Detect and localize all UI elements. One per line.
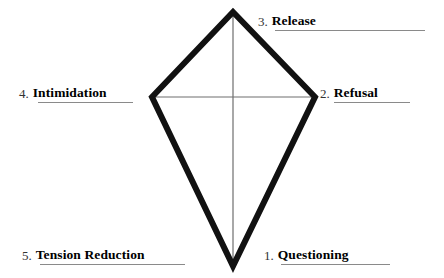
label-release-underline [275,30,425,31]
label-refusal: 2. Refusal [320,86,378,100]
label-questioning-number: 1. [264,249,278,262]
label-refusal-number: 2. [320,87,334,100]
label-questioning: 1. Questioning [264,248,349,262]
label-intimidation-text: Intimidation [33,86,107,100]
label-release-text: Release [272,14,316,28]
label-refusal-text: Refusal [334,86,378,100]
label-tension-reduction-underline [40,264,185,265]
label-release: 3. Release [258,14,316,28]
kite-shape-svg [0,0,444,278]
label-intimidation: 4. Intimidation [19,86,107,100]
label-tension-reduction: 5. Tension Reduction [22,248,145,262]
label-release-number: 3. [258,15,272,28]
diagram-canvas: 3. Release 2. Refusal 4. Intimidation 5.… [0,0,444,278]
label-intimidation-underline [38,102,133,103]
label-tension-reduction-text: Tension Reduction [36,248,145,262]
label-questioning-text: Questioning [278,248,349,262]
label-questioning-underline [281,264,390,265]
label-intimidation-number: 4. [19,87,33,100]
label-refusal-underline [334,102,410,103]
label-tension-reduction-number: 5. [22,249,36,262]
